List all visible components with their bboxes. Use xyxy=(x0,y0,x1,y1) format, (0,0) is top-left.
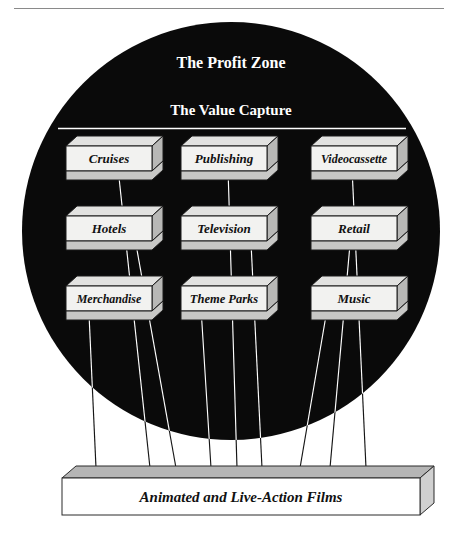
base-top-face xyxy=(62,466,434,478)
box-label-hotels: Hotels xyxy=(91,221,127,236)
box-label-music: Music xyxy=(336,291,370,306)
box-videocassette: Videocassette xyxy=(311,136,408,180)
diagram-canvas: The Profit Zone The Value Capture Cruise… xyxy=(0,0,457,537)
box-label-television: Television xyxy=(197,221,251,236)
box-label-videocassette: Videocassette xyxy=(321,152,388,166)
box-music: Music xyxy=(311,276,408,320)
value-capture-subtitle: The Value Capture xyxy=(170,102,292,118)
box-hotels: Hotels xyxy=(66,206,163,250)
box-label-publishing: Publishing xyxy=(195,151,254,166)
box-publishing: Publishing xyxy=(181,136,278,180)
box-television: Television xyxy=(181,206,278,250)
profit-zone-title: The Profit Zone xyxy=(176,54,285,71)
box-cruises: Cruises xyxy=(66,136,163,180)
box-theme-parks: Theme Parks xyxy=(181,276,278,320)
base-platform: Animated and Live-Action Films xyxy=(62,466,434,515)
box-label-theme-parks: Theme Parks xyxy=(190,292,259,306)
box-retail: Retail xyxy=(311,206,408,250)
box-label-cruises: Cruises xyxy=(89,151,129,166)
base-label: Animated and Live-Action Films xyxy=(139,489,343,505)
box-merchandise: Merchandise xyxy=(66,276,163,320)
box-label-merchandise: Merchandise xyxy=(76,292,142,306)
profit-zone-diagram: The Profit Zone The Value Capture Cruise… xyxy=(0,0,457,537)
box-label-retail: Retail xyxy=(337,221,370,236)
top-divider-rule xyxy=(14,8,444,9)
page-header-text xyxy=(0,0,457,6)
